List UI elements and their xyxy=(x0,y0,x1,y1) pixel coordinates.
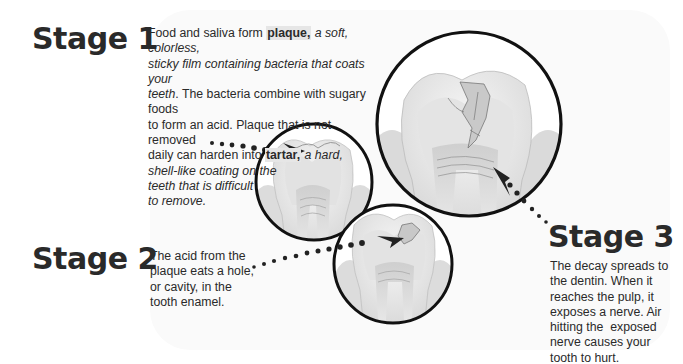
stage2-line-1: The acid from the xyxy=(150,249,260,264)
stage3-line-2: the dentin. When it xyxy=(550,274,680,289)
stage1-line-5: daily can harden into tartar, a hard, xyxy=(148,148,378,163)
stage2-title: Stage 2 xyxy=(32,244,158,274)
stage3-title: Stage 3 xyxy=(548,222,674,252)
stage1-line-4: to form an acid. Plaque that is not remo… xyxy=(148,118,378,149)
stage3-line-5: hitting the exposed xyxy=(550,320,680,335)
stage2-description: The acid from the plaque eats a hole, or… xyxy=(150,249,260,310)
stage2-line-3: or cavity, in the xyxy=(150,280,260,295)
stage1-description: Food and saliva form plaque, a soft, col… xyxy=(148,26,378,210)
stage3-description: The decay spreads to the dentin. When it… xyxy=(550,259,680,364)
stage3-line-1: The decay spreads to xyxy=(550,259,680,274)
stage1-line-6: shell-like coating on the xyxy=(148,164,378,179)
stage1-title: Stage 1 xyxy=(32,24,158,54)
stage1-line-7: teeth that is difficult xyxy=(148,179,378,194)
stage3-line-7: tooth to hurt. xyxy=(550,351,680,364)
stage1-line-2: sticky film containing bacteria that coa… xyxy=(148,57,378,88)
stage2-tooth-circle xyxy=(330,205,460,340)
stage3-line-4: exposes a nerve. Air xyxy=(550,305,680,320)
term-tartar: tartar, xyxy=(265,148,301,162)
stage1-line-1: Food and saliva form plaque, a soft, col… xyxy=(148,26,378,57)
stage1-line-3: teeth. The bacteria combine with sugary … xyxy=(148,87,378,118)
stage3-line-3: reaches the pulp, it xyxy=(550,290,680,305)
stage3-line-6: nerve causes your xyxy=(550,335,680,350)
term-plaque: plaque, xyxy=(266,26,311,40)
stage2-line-2: plaque eats a hole, xyxy=(150,264,260,279)
stage1-line-8: to remove. xyxy=(148,194,378,209)
stage2-line-4: tooth enamel. xyxy=(150,295,260,310)
